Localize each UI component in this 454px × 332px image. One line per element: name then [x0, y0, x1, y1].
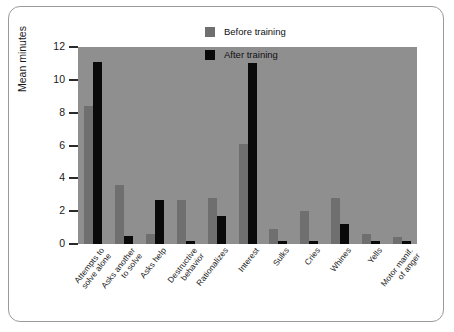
chart-legend: Before trainingAfter training — [205, 23, 286, 69]
y-axis-tick-label: 2 — [59, 204, 65, 216]
legend-item-label: Before training — [224, 26, 286, 37]
bar-after-training — [93, 62, 102, 244]
bar-before-training — [269, 229, 278, 244]
y-axis-tick-mark — [69, 79, 78, 81]
bar-before-training — [177, 200, 186, 244]
bar-before-training — [300, 211, 309, 244]
bar-after-training — [217, 216, 226, 244]
bar-before-training — [331, 198, 340, 244]
legend-item: Before training — [205, 23, 286, 40]
y-axis-tick-mark — [69, 243, 78, 245]
legend-item: After training — [205, 46, 286, 63]
y-axis-tick-label: 8 — [59, 106, 65, 118]
bar-before-training — [393, 237, 402, 244]
bar-after-training — [309, 241, 318, 244]
x-axis-tick-labels: Attempts to solve aloneAsks another to s… — [9, 246, 445, 332]
y-axis-tick-mark — [69, 145, 78, 147]
bar-after-training — [340, 224, 349, 244]
bar-after-training — [186, 241, 195, 244]
y-axis-title: Mean minutes — [16, 0, 28, 119]
bar-before-training — [115, 185, 124, 244]
bar-after-training — [278, 241, 287, 244]
bar-after-training — [155, 200, 164, 244]
y-axis-tick-label: 10 — [53, 73, 65, 85]
bar-after-training — [124, 236, 133, 244]
y-axis-tick-label: 6 — [59, 139, 65, 151]
y-axis-tick-mark — [69, 112, 78, 114]
bar-before-training — [239, 144, 248, 244]
bar-before-training — [208, 198, 217, 244]
bar-after-training — [248, 63, 257, 244]
bar-after-training — [371, 241, 380, 244]
legend-swatch-icon — [205, 50, 215, 60]
y-axis-tick-mark — [69, 210, 78, 212]
y-axis-tick-label: 12 — [53, 40, 65, 52]
y-axis-tick-mark — [69, 177, 78, 179]
bar-after-training — [402, 241, 411, 244]
y-axis-tick-label: 4 — [59, 171, 65, 183]
bar-before-training — [84, 106, 93, 244]
plot-area — [78, 47, 417, 244]
legend-swatch-icon — [205, 27, 215, 37]
legend-item-label: After training — [224, 49, 278, 60]
y-axis-tick-mark — [69, 46, 78, 48]
bar-before-training — [146, 234, 155, 244]
figure-frame: 121086420 Mean minutes Attempts to solve… — [8, 6, 444, 322]
bar-before-training — [362, 234, 371, 244]
